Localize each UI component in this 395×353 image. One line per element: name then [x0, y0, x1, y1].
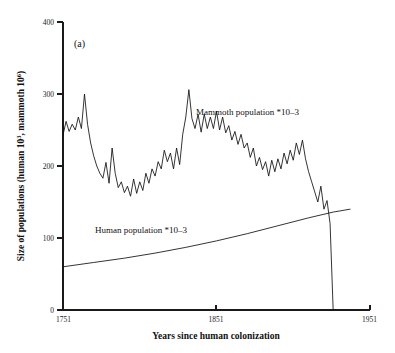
x-tick-label-1751: 1751	[56, 315, 71, 324]
human-series-label: Human population *10–3	[95, 225, 187, 235]
x-axis-ticks	[63, 305, 370, 310]
x-axis-title: Years since human colonization	[152, 331, 280, 341]
y-tick-label-100: 100	[43, 234, 55, 243]
y-tick-label-200: 200	[43, 162, 55, 171]
y-tick-label-0: 0	[50, 306, 54, 315]
figure-panel-a: 400 300 200 100 0 1751 1851 1951 (a) Mam…	[0, 0, 395, 353]
population-line-chart: 400 300 200 100 0 1751 1851 1951 (a) Mam…	[0, 0, 395, 353]
panel-label: (a)	[74, 38, 85, 50]
y-axis-title-middle: , mammoth 10	[16, 77, 26, 136]
x-tick-label-1951: 1951	[362, 315, 377, 324]
mammoth-population-line	[63, 90, 333, 310]
y-axis-ticks	[57, 22, 63, 310]
human-population-line	[63, 209, 350, 267]
x-tick-label-1851: 1851	[209, 315, 224, 324]
mammoth-series-label: Mammoth population *10–3	[196, 107, 299, 117]
y-tick-label-400: 400	[43, 18, 55, 27]
y-axis-title: Size of populations (human 103, mammoth …	[15, 71, 27, 261]
y-axis-title-prefix: Size of populations (human 10	[16, 139, 27, 262]
y-axis-title-suffix: )	[16, 71, 27, 74]
y-tick-label-300: 300	[43, 90, 55, 99]
